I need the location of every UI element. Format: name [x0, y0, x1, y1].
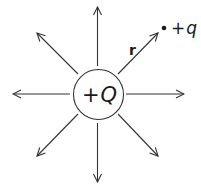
central-charge-symbol: Q: [101, 83, 118, 107]
field-line-down-left: [37, 114, 78, 156]
field-line-up-left: [37, 33, 78, 74]
central-charge-sign: +: [82, 83, 100, 107]
test-charge-sign: +: [171, 18, 185, 38]
field-line-up-right: [118, 33, 158, 74]
vector-r-label: r: [129, 42, 136, 58]
svg-text:+q: +q: [171, 18, 197, 38]
field-diagram: +Q r +q: [0, 0, 201, 189]
field-line-down-right: [118, 114, 158, 156]
test-charge-symbol: q: [186, 18, 197, 38]
test-charge-dot: [162, 26, 167, 31]
svg-text:+Q: +Q: [82, 83, 117, 107]
